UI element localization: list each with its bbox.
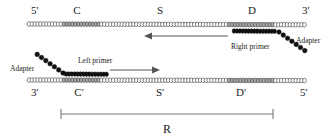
label-left-primer: Left primer — [78, 56, 113, 65]
right-primer-bead — [273, 29, 277, 34]
right-primer-beads — [232, 29, 276, 34]
schematic-canvas: 5' C S D 3' Right primer Adapter Adapter… — [0, 0, 335, 139]
adapter-bead — [56, 68, 61, 73]
label-bottom-Dprime: D' — [236, 86, 246, 98]
adapter-bead — [303, 48, 308, 53]
adapter-bead — [52, 65, 57, 70]
adapter-bead — [35, 52, 40, 57]
amplicon-span-bracket: R — [61, 109, 273, 136]
adapter-bead — [44, 58, 49, 63]
adapter-bead — [48, 61, 53, 66]
label-top-adapter: Adapter — [296, 36, 321, 45]
label-top-C: C — [73, 4, 80, 16]
label-top-D: D — [248, 4, 256, 16]
adapter-bead — [277, 30, 282, 35]
bottom-strand-beads — [27, 78, 306, 83]
label-top-S: S — [157, 4, 163, 16]
label-bottom-Sprime: S' — [156, 86, 164, 98]
adapter-bead — [39, 55, 44, 60]
left-primer-direction-arrow — [110, 67, 160, 74]
label-span-R: R — [163, 122, 171, 136]
adapter-bead — [298, 45, 303, 50]
bottom-strand-group: Adapter Left primer 3' C' S' D' 5' — [10, 52, 308, 98]
top-strand-beads — [27, 22, 306, 27]
adapter-bead — [290, 39, 295, 44]
nucleotide-bead — [303, 22, 307, 27]
nucleotide-bead — [303, 78, 307, 83]
adapter-bead — [285, 36, 290, 41]
label-right-primer: Right primer — [231, 42, 270, 51]
bottom-adapter-beads — [35, 52, 65, 75]
label-bottom-Cprime: C' — [74, 86, 83, 98]
right-primer-direction-arrow — [144, 33, 228, 40]
label-bottom-5prime: 5' — [300, 86, 308, 98]
adapter-bead — [61, 71, 66, 76]
left-primer-beads — [64, 72, 108, 77]
left-primer-bead — [105, 72, 109, 77]
label-bottom-3prime: 3' — [31, 86, 39, 98]
top-strand-group: 5' C S D 3' Right primer Adapter — [27, 4, 321, 53]
pcr-schematic-figure: 5' C S D 3' Right primer Adapter Adapter… — [0, 0, 335, 139]
adapter-bead — [281, 33, 286, 38]
label-top-3prime: 3' — [302, 4, 310, 16]
label-top-5prime: 5' — [31, 4, 39, 16]
label-bottom-adapter: Adapter — [10, 64, 35, 73]
